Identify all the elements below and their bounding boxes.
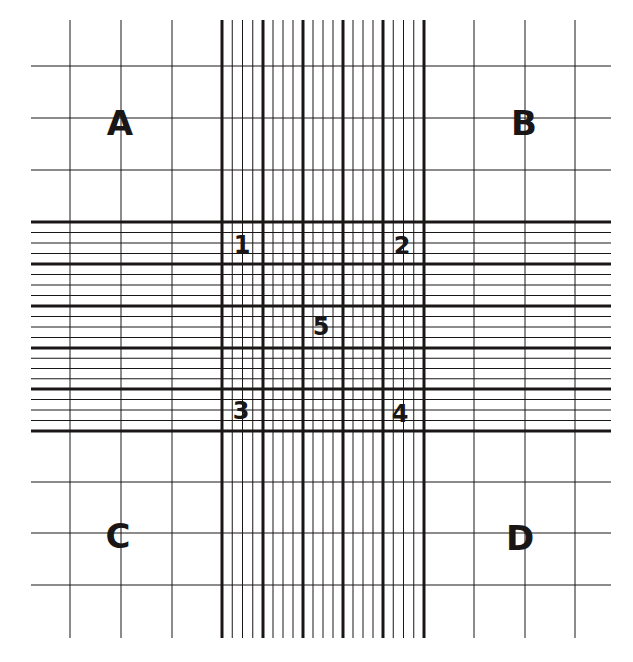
square-label-c: C xyxy=(106,519,131,553)
square-label-4: 4 xyxy=(392,402,409,426)
square-label-d: D xyxy=(506,521,534,555)
square-label-3: 3 xyxy=(233,399,250,423)
square-label-1: 1 xyxy=(234,233,251,257)
square-label-2: 2 xyxy=(394,234,411,258)
square-label-a: A xyxy=(107,106,133,140)
square-label-b: B xyxy=(511,106,537,140)
square-label-5: 5 xyxy=(313,315,330,339)
